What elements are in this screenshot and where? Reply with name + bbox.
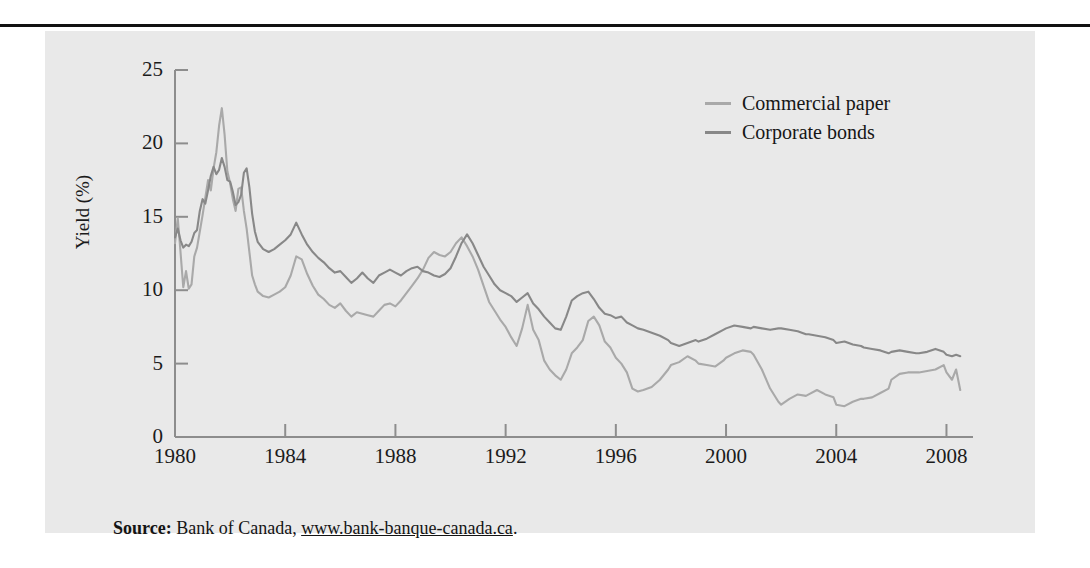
y-axis-label: Yield (%)	[72, 132, 94, 292]
legend-label-commercial-paper: Commercial paper	[742, 92, 890, 115]
legend-item-corporate-bonds: Corporate bonds	[705, 118, 890, 147]
x-tick-label: 1980	[130, 446, 220, 467]
y-tick-label: 25	[119, 59, 163, 80]
legend-swatch-corporate-bonds	[705, 131, 731, 134]
source-text: Bank of Canada,	[172, 518, 301, 538]
y-tick-label: 15	[119, 206, 163, 227]
x-tick-label: 2008	[901, 446, 991, 467]
y-tick-label: 20	[119, 132, 163, 153]
x-tick-label: 1988	[350, 446, 440, 467]
x-tick-label: 2000	[681, 446, 771, 467]
legend-label-corporate-bonds: Corporate bonds	[742, 121, 875, 144]
source-label: Source:	[113, 518, 172, 538]
legend-item-commercial-paper: Commercial paper	[705, 89, 890, 118]
x-tick-label: 1984	[240, 446, 330, 467]
y-tick-label: 5	[119, 353, 163, 374]
chart-legend: Commercial paper Corporate bonds	[705, 89, 890, 147]
legend-swatch-commercial-paper	[705, 102, 731, 105]
x-tick-label: 1992	[461, 446, 551, 467]
source-note: Source: Bank of Canada, www.bank-banque-…	[113, 518, 517, 539]
figure-root: Yield (%) 0510152025 1980198419881992199…	[0, 0, 1090, 568]
x-tick-label: 1996	[571, 446, 661, 467]
source-url-link[interactable]: www.bank-banque-canada.ca	[301, 518, 513, 538]
y-tick-label: 10	[119, 279, 163, 300]
source-period: .	[513, 518, 518, 538]
top-divider-rule	[0, 24, 1090, 27]
x-tick-label: 2004	[791, 446, 881, 467]
chart-panel: Yield (%) 0510152025 1980198419881992199…	[45, 31, 1035, 533]
